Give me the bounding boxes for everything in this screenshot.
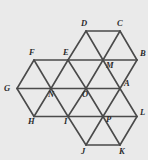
vertex-label-d: D bbox=[80, 18, 87, 28]
vertex-label-i: I bbox=[63, 116, 68, 126]
vertex-label-c: C bbox=[117, 18, 123, 28]
vertex-label-b: B bbox=[139, 48, 146, 58]
triangular-lattice-figure: DCFEMBGNOAHIPLJK bbox=[0, 0, 148, 160]
figure-canvas: DCFEMBGNOAHIPLJK bbox=[0, 0, 148, 160]
vertex-label-l: L bbox=[139, 107, 145, 117]
vertex-label-g: G bbox=[4, 83, 11, 93]
vertex-label-f: F bbox=[28, 47, 35, 57]
vertex-label-a: A bbox=[123, 78, 130, 88]
vertex-label-p: P bbox=[106, 114, 112, 124]
vertex-label-m: M bbox=[105, 60, 114, 70]
vertex-label-j: J bbox=[80, 146, 86, 156]
vertex-label-n: N bbox=[47, 89, 55, 99]
vertex-label-o: O bbox=[82, 89, 88, 99]
vertex-label-h: H bbox=[27, 116, 35, 126]
vertex-label-e: E bbox=[62, 47, 69, 57]
